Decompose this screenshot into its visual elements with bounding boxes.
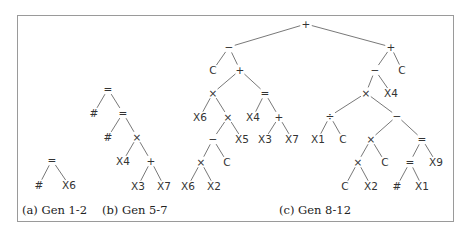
tree-node: X6 xyxy=(62,179,76,191)
tree-node: − xyxy=(393,110,402,122)
tree-edge xyxy=(400,167,407,180)
tree-edge xyxy=(140,142,148,156)
tree-edge xyxy=(361,167,368,180)
tree-node: × xyxy=(362,87,371,99)
tree-edge xyxy=(425,144,433,157)
tree-node: C xyxy=(381,156,388,168)
tree-edge xyxy=(335,96,361,113)
tree-edge xyxy=(97,94,105,108)
tree-node: # xyxy=(393,180,402,192)
tree-edge xyxy=(361,144,368,157)
tree-edges xyxy=(42,26,433,181)
tree-edge xyxy=(141,166,148,180)
expression-trees: =#X6=#=#×X4+X3X7+−C+×=X6×X4+−X5X3X7×CX6X… xyxy=(0,0,471,233)
tree-edge xyxy=(348,167,355,180)
tree-edge xyxy=(126,118,134,132)
tree-node: X2 xyxy=(207,180,221,192)
tree-edge xyxy=(368,76,373,88)
tree-edge xyxy=(375,120,392,135)
tree-node: X4 xyxy=(246,111,260,123)
tree-node: X6 xyxy=(193,111,207,123)
tree-node: X9 xyxy=(429,156,443,168)
tree-edge xyxy=(216,122,224,134)
tree-node: X4 xyxy=(384,87,398,99)
tree-edge xyxy=(126,142,134,156)
tree-edge xyxy=(394,52,400,64)
tree-edge xyxy=(413,144,419,156)
tree-node: × xyxy=(209,87,218,99)
tree-edge xyxy=(216,144,224,157)
tree-edge xyxy=(235,26,301,46)
caption-panel-c: (c) Gen 8-12 xyxy=(279,203,351,217)
tree-edge xyxy=(111,118,120,132)
tree-node: # xyxy=(90,107,99,119)
tree-node: + xyxy=(275,111,284,123)
tree-node: + xyxy=(302,18,311,30)
tree-edge xyxy=(244,74,260,89)
tree-node: × xyxy=(367,133,376,145)
tree-node: # xyxy=(35,179,44,191)
tree-edge xyxy=(42,165,49,179)
tree-edge xyxy=(204,167,211,180)
tree-edge xyxy=(55,165,65,180)
tree-node: C xyxy=(341,180,348,192)
tree-node: X7 xyxy=(285,133,299,145)
tree-node: X7 xyxy=(157,180,171,192)
tree-node: C xyxy=(339,133,346,145)
tree-node: × xyxy=(224,111,233,123)
tree-node: C xyxy=(398,64,405,76)
tree-node: X3 xyxy=(258,133,272,145)
tree-node: − xyxy=(225,41,234,53)
tree-node: ÷ xyxy=(326,110,335,122)
tree-node: X5 xyxy=(235,133,249,145)
tree-node: = xyxy=(48,154,57,166)
tree-edge xyxy=(216,98,225,112)
tree-edge xyxy=(256,98,263,111)
tree-node: + xyxy=(147,155,156,167)
tree-node: + xyxy=(236,64,245,76)
tree-node: X2 xyxy=(364,180,378,192)
tree-node: C xyxy=(223,156,230,168)
tree-node: = xyxy=(104,83,113,95)
tree-edge xyxy=(401,120,417,135)
tree-node: X4 xyxy=(116,155,130,167)
tree-node: X1 xyxy=(311,133,325,145)
caption-panel-b: (b) Gen 5-7 xyxy=(102,203,168,217)
tree-node: = xyxy=(406,156,415,168)
tree-node: C xyxy=(209,64,216,76)
tree-node: × xyxy=(133,131,142,143)
tree-edge xyxy=(218,74,236,89)
tree-node: X3 xyxy=(131,180,145,192)
tree-edge xyxy=(191,167,198,180)
tree-edge xyxy=(111,94,120,108)
tree-node: + xyxy=(387,41,396,53)
tree-edge xyxy=(216,52,225,65)
tree-edge xyxy=(374,144,382,157)
tree-edge xyxy=(333,121,340,134)
tree-node: − xyxy=(209,133,218,145)
tree-node: = xyxy=(418,133,427,145)
tree-edge xyxy=(378,52,387,65)
tree-node: X6 xyxy=(181,180,195,192)
caption-panel-a: (a) Gen 1-2 xyxy=(22,203,87,217)
tree-edge xyxy=(413,167,420,180)
tree-node: X1 xyxy=(415,180,429,192)
tree-edge xyxy=(154,166,161,180)
tree-node: # xyxy=(104,131,113,143)
tree-node: = xyxy=(261,87,270,99)
tree-edge xyxy=(232,52,238,64)
tree-edge xyxy=(203,98,210,111)
tree-node: × xyxy=(354,156,363,168)
tree-edge xyxy=(312,26,385,46)
tree-edge xyxy=(321,121,327,133)
tree-edge xyxy=(204,144,210,156)
tree-node: × xyxy=(197,156,206,168)
tree-node: − xyxy=(371,64,380,76)
tree-node: = xyxy=(119,107,128,119)
tree-edge xyxy=(268,98,276,112)
